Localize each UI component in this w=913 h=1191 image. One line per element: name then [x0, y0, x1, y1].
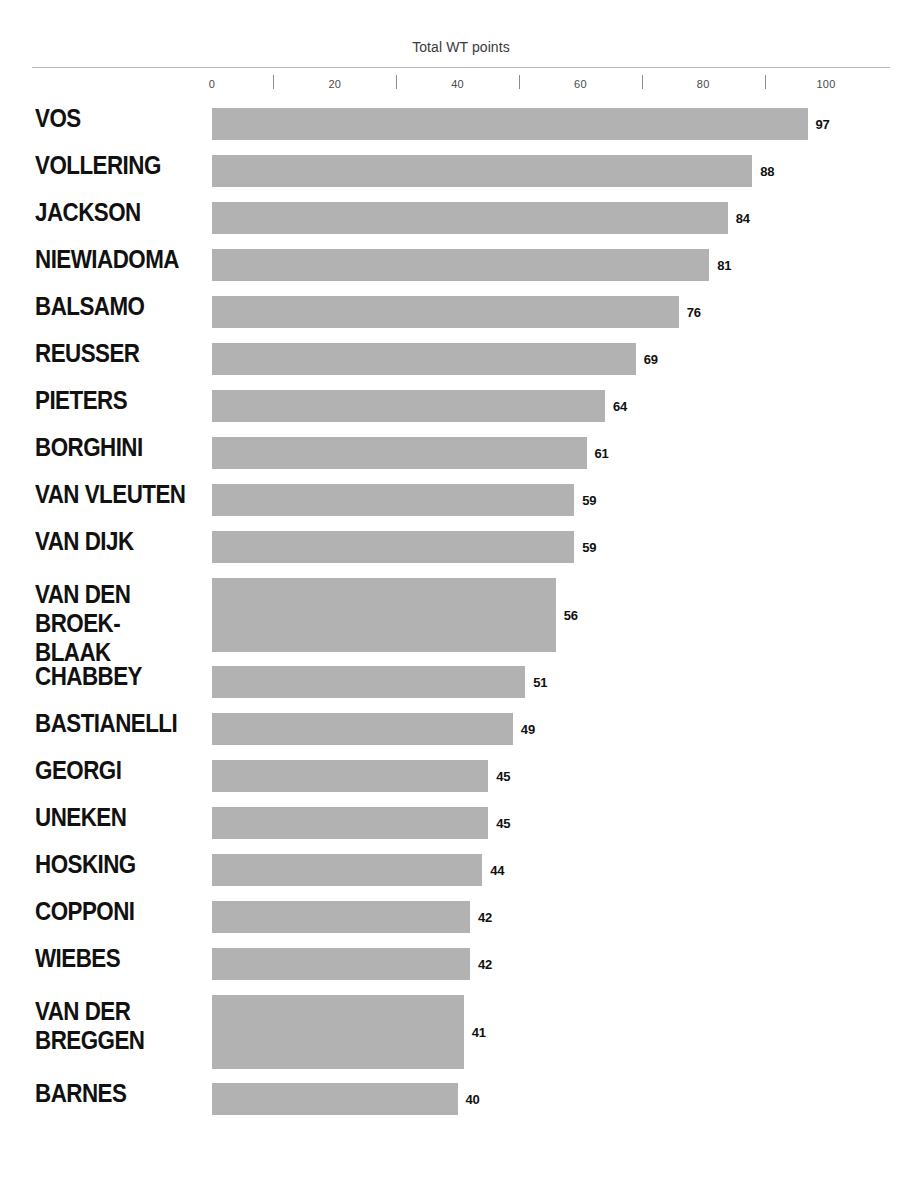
bar-row[interactable]: VAN DER BREGGEN41	[0, 989, 913, 1077]
bar-track: 44	[212, 854, 913, 886]
bar[interactable]	[212, 1083, 458, 1115]
bar-category-label: JACKSON	[35, 198, 190, 227]
bar-track: 64	[212, 390, 913, 422]
x-axis-tick-label: 20	[328, 78, 341, 90]
bar-value-label: 59	[582, 493, 596, 508]
bar-track: 45	[212, 760, 913, 792]
bar-track: 59	[212, 484, 913, 516]
bar-row[interactable]: WIEBES42	[0, 942, 913, 989]
bar-track: 42	[212, 948, 913, 980]
bar-track: 84	[212, 202, 913, 234]
x-axis-tick-mark	[396, 75, 397, 89]
bar-value-label: 84	[736, 211, 750, 226]
bar-value-label: 81	[717, 258, 731, 273]
x-axis-tick-mark	[765, 75, 766, 89]
bar-row[interactable]: HOSKING44	[0, 848, 913, 895]
bar-value-label: 45	[496, 816, 510, 831]
bar-value-label: 44	[490, 863, 504, 878]
bar[interactable]	[212, 666, 525, 698]
bar-row[interactable]: VOLLERING88	[0, 149, 913, 196]
bar-value-label: 76	[687, 305, 701, 320]
bar-row[interactable]: UNEKEN45	[0, 801, 913, 848]
bar-row[interactable]: GEORGI45	[0, 754, 913, 801]
bar-value-label: 97	[816, 117, 830, 132]
bar[interactable]	[212, 995, 464, 1069]
bar[interactable]	[212, 484, 574, 516]
x-axis-tick-label: 60	[574, 78, 587, 90]
bar[interactable]	[212, 578, 556, 652]
bar[interactable]	[212, 807, 488, 839]
x-axis-tick-label: 80	[697, 78, 710, 90]
bar-row[interactable]: CHABBEY51	[0, 660, 913, 707]
bar[interactable]	[212, 531, 574, 563]
bar-category-label: HOSKING	[35, 850, 190, 879]
bar-category-label: VOLLERING	[35, 151, 190, 180]
bar-category-label: PIETERS	[35, 386, 190, 415]
bar-row[interactable]: BASTIANELLI49	[0, 707, 913, 754]
bar-row[interactable]: PIETERS64	[0, 384, 913, 431]
bar[interactable]	[212, 296, 679, 328]
bar[interactable]	[212, 854, 482, 886]
x-axis-tick-mark	[642, 75, 643, 89]
x-axis: 020406080100	[0, 68, 913, 102]
bar[interactable]	[212, 202, 728, 234]
bar-category-label: REUSSER	[35, 339, 190, 368]
bar[interactable]	[212, 155, 752, 187]
bar[interactable]	[212, 437, 587, 469]
bar-value-label: 56	[564, 608, 578, 623]
bar-value-label: 59	[582, 540, 596, 555]
bar[interactable]	[212, 901, 470, 933]
x-axis-tick-label: 0	[209, 78, 215, 90]
bar-category-label: COPPONI	[35, 897, 190, 926]
bar[interactable]	[212, 249, 709, 281]
bar-row[interactable]: VAN VLEUTEN59	[0, 478, 913, 525]
bar-row[interactable]: REUSSER69	[0, 337, 913, 384]
bar-value-label: 49	[521, 722, 535, 737]
chart-title: Total WT points	[32, 38, 890, 56]
bar-value-label: 41	[472, 1025, 486, 1040]
bar-track: 42	[212, 901, 913, 933]
bar-track: 56	[212, 578, 913, 652]
bar-track: 45	[212, 807, 913, 839]
bar[interactable]	[212, 108, 808, 140]
bar-category-label: CHABBEY	[35, 662, 190, 691]
bar-row[interactable]: BORGHINI61	[0, 431, 913, 478]
bar-category-label: GEORGI	[35, 756, 190, 785]
bar-row[interactable]: VOS97	[0, 102, 913, 149]
bar-row[interactable]: COPPONI42	[0, 895, 913, 942]
bar[interactable]	[212, 948, 470, 980]
bar-track: 76	[212, 296, 913, 328]
bar-chart: Total WT points 020406080100 VOS97VOLLER…	[0, 0, 913, 1191]
bar[interactable]	[212, 760, 488, 792]
bar[interactable]	[212, 713, 513, 745]
bar-row[interactable]: VAN DEN BROEK-BLAAK56	[0, 572, 913, 660]
bar-category-label: VAN DER BREGGEN	[35, 997, 190, 1055]
x-axis-tick-label: 100	[817, 78, 836, 90]
bar-row[interactable]: JACKSON84	[0, 196, 913, 243]
bar-category-label: BALSAMO	[35, 292, 190, 321]
bar-track: 49	[212, 713, 913, 745]
x-axis-tick-mark	[519, 75, 520, 89]
bar-row[interactable]: NIEWIADOMA81	[0, 243, 913, 290]
bar-track: 59	[212, 531, 913, 563]
bar-category-label: VAN VLEUTEN	[35, 480, 190, 509]
bar-category-label: UNEKEN	[35, 803, 190, 832]
bar-track: 61	[212, 437, 913, 469]
bar-track: 81	[212, 249, 913, 281]
bar-value-label: 64	[613, 399, 627, 414]
bar-category-label: VAN DEN BROEK-BLAAK	[35, 580, 190, 667]
x-axis-tick-label: 40	[451, 78, 464, 90]
bar-value-label: 42	[478, 957, 492, 972]
bars-area: VOS97VOLLERING88JACKSON84NIEWIADOMA81BAL…	[0, 102, 913, 1124]
bar-track: 41	[212, 995, 913, 1069]
bar[interactable]	[212, 343, 636, 375]
bar-category-label: VAN DIJK	[35, 527, 190, 556]
bar-row[interactable]: BALSAMO76	[0, 290, 913, 337]
bar-value-label: 51	[533, 675, 547, 690]
bar-category-label: NIEWIADOMA	[35, 245, 190, 274]
bar-row[interactable]: BARNES40	[0, 1077, 913, 1124]
bar-row[interactable]: VAN DIJK59	[0, 525, 913, 572]
bar[interactable]	[212, 390, 605, 422]
bar-value-label: 40	[466, 1092, 480, 1107]
bar-category-label: WIEBES	[35, 944, 190, 973]
